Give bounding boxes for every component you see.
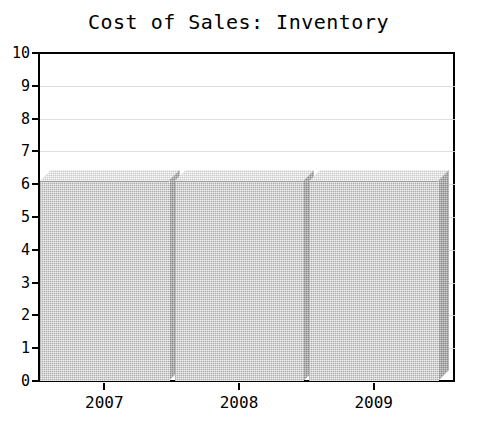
- bar-top-edge: [309, 181, 438, 182]
- x-axis-label-2008: 2008: [194, 393, 284, 413]
- bar-top-face: [40, 170, 180, 181]
- y-axis-tick: [32, 282, 40, 284]
- bar-top-edge: [40, 181, 169, 182]
- chart-container: Cost of Sales: Inventory 012345678910 20…: [0, 0, 477, 431]
- x-axis-tick: [373, 383, 375, 390]
- y-axis-tick: [32, 249, 40, 251]
- bar-top-face: [175, 170, 315, 181]
- y-axis-label: 5: [2, 210, 30, 225]
- y-axis-tick: [32, 314, 40, 316]
- bar-front-face: [40, 181, 170, 381]
- y-axis-label: 4: [2, 243, 30, 258]
- y-axis-label: 3: [2, 276, 30, 291]
- bar-front-face: [309, 181, 439, 381]
- y-axis-tick: [32, 216, 40, 218]
- bar-top-face: [309, 170, 449, 181]
- y-axis-tick: [32, 118, 40, 120]
- x-axis-label-2007: 2007: [59, 393, 149, 413]
- chart-title: Cost of Sales: Inventory: [0, 8, 477, 36]
- y-axis-label: 6: [2, 177, 30, 192]
- y-axis-label: 10: [2, 46, 30, 61]
- plot-area: [40, 53, 455, 381]
- y-axis-tick: [32, 85, 40, 87]
- bar-2007: [40, 53, 180, 381]
- bar-2009: [309, 53, 449, 381]
- bar-2008: [175, 53, 315, 381]
- x-axis-tick: [238, 383, 240, 390]
- y-axis-label: 7: [2, 144, 30, 159]
- y-axis-label: 2: [2, 308, 30, 323]
- y-axis-tick: [32, 150, 40, 152]
- y-axis-label: 9: [2, 79, 30, 94]
- x-axis-label-2009: 2009: [329, 393, 419, 413]
- bar-front-face: [175, 181, 305, 381]
- y-axis-tick: [32, 183, 40, 185]
- x-axis-tick: [103, 383, 105, 390]
- y-axis-tick: [32, 347, 40, 349]
- y-axis-label: 0: [2, 374, 30, 389]
- y-axis-tick: [32, 52, 40, 54]
- y-axis-label: 1: [2, 341, 30, 356]
- bar-side-face: [438, 170, 449, 381]
- y-axis-label: 8: [2, 112, 30, 127]
- y-axis-tick: [32, 380, 40, 382]
- bar-top-edge: [175, 181, 304, 182]
